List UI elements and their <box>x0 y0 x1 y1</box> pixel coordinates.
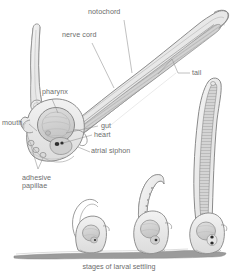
ascidian-larva-figure <box>0 0 238 273</box>
stage-1-settled-early <box>73 199 110 253</box>
stage-2-settled-mid <box>134 175 172 254</box>
label-pharynx: pharynx <box>42 88 68 96</box>
label-mouth: mouth <box>2 119 22 127</box>
heart-marker <box>55 142 60 146</box>
label-heart: heart <box>94 131 111 139</box>
figure-caption: stages of larval settling <box>0 262 238 271</box>
label-gut: gut <box>101 122 111 130</box>
label-atrial-siphon: atrial siphon <box>91 147 130 155</box>
label-tail: tail <box>192 69 201 77</box>
label-adhesive-papillae-line2: papillae <box>22 182 47 190</box>
label-nerve-cord: nerve cord <box>62 31 96 39</box>
detached-tail-fragment <box>31 24 44 112</box>
stage-3-settled-late <box>190 78 227 254</box>
label-notochord: notochord <box>88 8 120 16</box>
